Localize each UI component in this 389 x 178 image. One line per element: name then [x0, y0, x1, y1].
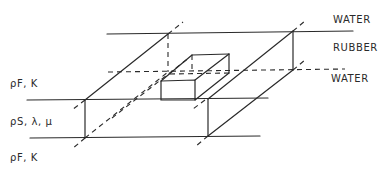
label-top-fluid-params: ρF, K — [10, 78, 38, 89]
top-back-edge — [107, 31, 353, 34]
bottom-left-hidden-diagonal — [85, 72, 168, 138]
bottom-left-diagonal-extension-down — [72, 138, 85, 149]
label-rubber: RUBBER — [333, 42, 378, 53]
top-left-diagonal — [85, 34, 168, 100]
top-front-edge — [27, 98, 268, 100]
label-solid-params: ρS, λ, μ — [10, 116, 53, 127]
label-top-water: WATER — [333, 14, 371, 25]
box-top-back-edge — [192, 54, 229, 55]
bottom-right-diagonal-extension-up — [293, 60, 305, 70]
top-left-diagonal-extension-up — [168, 22, 183, 34]
embedded-inclusion-box — [161, 54, 229, 100]
slab-diagram — [0, 0, 389, 178]
top-left-diagonal-extension-down — [72, 100, 85, 110]
box-top-right-edge — [195, 54, 229, 80]
top-right-diagonal — [208, 31, 293, 99]
box-top-left-edge — [161, 55, 192, 81]
box-front-face — [161, 80, 195, 100]
box-hidden-bottom-back — [170, 73, 229, 74]
label-bottom-water: WATER — [331, 73, 369, 84]
front-right-diagonal-extension-down — [196, 136, 208, 146]
box-diagonal-extension-down — [193, 100, 205, 109]
label-bottom-fluid-params: ρF, K — [10, 152, 38, 163]
bottom-front-edge — [30, 136, 260, 138]
top-right-diagonal-extension-up — [293, 21, 305, 31]
bottom-back-hidden-edge — [108, 69, 345, 72]
